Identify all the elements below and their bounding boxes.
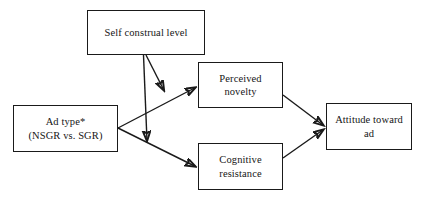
node-perceived-novelty-label: Perceived novelty (216, 72, 264, 98)
node-cognitive-resistance-line2: resistance (219, 168, 261, 179)
node-ad-type-line1: Ad type* (46, 116, 86, 127)
edge-self-construal-moderates-resistance-path (144, 55, 148, 141)
node-cognitive-resistance-line1: Cognitive (219, 154, 261, 165)
node-ad-type-label: Ad type* (NSGR vs. SGR) (25, 115, 105, 141)
node-attitude-toward-ad-label: Attitude toward ad (332, 113, 406, 139)
node-ad-type[interactable]: Ad type* (NSGR vs. SGR) (13, 105, 118, 152)
model-diagram-canvas: Self construal level Ad type* (NSGR vs. … (0, 0, 424, 208)
node-cognitive-resistance-label: Cognitive resistance (216, 153, 264, 179)
node-perceived-novelty-line1: Perceived (219, 73, 261, 84)
edge-self-construal-moderates-novelty-path (146, 55, 164, 91)
node-attitude-toward-ad[interactable]: Attitude toward ad (326, 103, 412, 150)
edge-ad-type-to-cognitive-resistance (118, 128, 196, 167)
node-ad-type-line2: (NSGR vs. SGR) (28, 130, 102, 141)
node-perceived-novelty[interactable]: Perceived novelty (198, 62, 283, 108)
node-self-construal-level-label: Self construal level (101, 26, 190, 39)
node-perceived-novelty-line2: novelty (224, 86, 256, 97)
node-attitude-toward-ad-line2: ad (364, 128, 374, 139)
edge-perceived-novelty-to-attitude (283, 95, 324, 126)
node-self-construal-level[interactable]: Self construal level (87, 10, 205, 55)
node-attitude-toward-ad-line1: Attitude toward (335, 114, 403, 125)
node-cognitive-resistance[interactable]: Cognitive resistance (198, 143, 283, 190)
edge-ad-type-to-perceived-novelty (118, 88, 196, 129)
edge-cognitive-resistance-to-attitude (283, 130, 324, 159)
